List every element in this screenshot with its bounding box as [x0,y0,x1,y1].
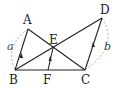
length-label-b: b [104,40,111,53]
label-E: E [49,33,58,47]
label-D: D [100,3,110,17]
diagram-canvas: A B C D E F a b [0,0,114,88]
label-B: B [9,73,18,87]
label-A: A [22,13,32,27]
label-F: F [43,73,51,87]
geometry-diagram: A B C D E F a b [0,0,114,88]
label-C: C [81,73,90,87]
length-label-a: a [7,40,14,53]
